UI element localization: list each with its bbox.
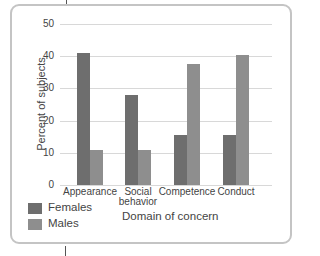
bar-males-conduct xyxy=(236,55,249,185)
y-tick-label: 0 xyxy=(28,180,54,190)
bar-males-appearance xyxy=(90,150,103,185)
bottom-connector-tick xyxy=(65,246,66,256)
y-tick-label: 10 xyxy=(28,148,54,158)
bar-females-appearance xyxy=(77,53,90,185)
bar-males-competence xyxy=(187,64,200,185)
legend-swatch-males xyxy=(28,219,42,230)
y-axis-title: Percent of subjects xyxy=(35,49,47,159)
x-axis-title: Domain of concern xyxy=(122,210,219,222)
bar-females-social-behavior xyxy=(125,95,138,185)
y-tick-label: 30 xyxy=(28,83,54,93)
legend-label-males: Males xyxy=(48,217,79,229)
y-tick-label: 40 xyxy=(28,51,54,61)
bar-females-competence xyxy=(174,135,187,185)
y-tick-label: 50 xyxy=(28,19,54,29)
bar-males-social-behavior xyxy=(138,150,151,185)
legend-swatch-females xyxy=(28,203,42,214)
gridline xyxy=(60,24,272,25)
x-category-label: Conduct xyxy=(206,187,266,197)
bar-females-conduct xyxy=(223,135,236,185)
legend-label-females: Females xyxy=(48,201,92,213)
y-tick-label: 20 xyxy=(28,116,54,126)
